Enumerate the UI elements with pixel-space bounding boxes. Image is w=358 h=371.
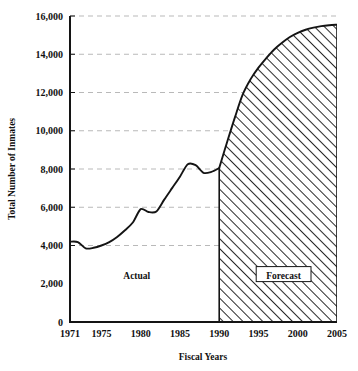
- y-tick-label-14000: 14,000: [36, 49, 64, 60]
- y-tick-label-0: 0: [58, 317, 63, 328]
- inmate-population-chart: 02,0004,0006,0008,00010,00012,00014,0001…: [0, 0, 358, 371]
- x-tick-label-1971: 1971: [60, 328, 80, 339]
- x-tick-label-2005: 2005: [327, 328, 347, 339]
- y-tick-label-6000: 6,000: [41, 202, 64, 213]
- y-tick-label-2000: 2,000: [41, 278, 64, 289]
- y-tick-label-16000: 16,000: [36, 11, 64, 22]
- x-tick-label-1980: 1980: [131, 328, 151, 339]
- chart-svg: 02,0004,0006,0008,00010,00012,00014,0001…: [0, 0, 358, 371]
- forecast-label: Forecast: [266, 271, 301, 281]
- x-tick-label-1975: 1975: [91, 328, 111, 339]
- x-tick-label-1990: 1990: [209, 328, 229, 339]
- x-tick-label-1995: 1995: [248, 328, 268, 339]
- y-tick-label-12000: 12,000: [36, 87, 64, 98]
- y-tick-label-8000: 8,000: [41, 164, 64, 175]
- y-tick-labels-group: 02,0004,0006,0008,00010,00012,00014,0001…: [36, 11, 64, 328]
- y-tick-label-4000: 4,000: [41, 240, 64, 251]
- actual-label: Actual: [123, 271, 150, 281]
- y-tick-label-10000: 10,000: [36, 125, 64, 136]
- y-axis-title: Total Number of Inmates: [7, 118, 17, 220]
- x-tick-label-1985: 1985: [170, 328, 190, 339]
- x-tick-label-2000: 2000: [288, 328, 308, 339]
- x-axis-title: Fiscal Years: [179, 352, 228, 362]
